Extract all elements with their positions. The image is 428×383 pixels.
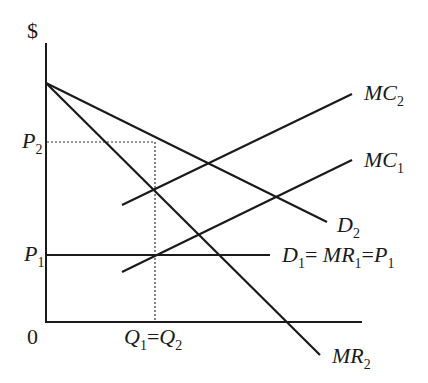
d2-curve xyxy=(46,83,327,222)
mc2-label: MC2 xyxy=(363,80,404,109)
mr2-label: MR2 xyxy=(331,343,371,372)
origin-label: 0 xyxy=(27,324,38,349)
d2-label: D2 xyxy=(336,212,360,241)
p1-label: P1 xyxy=(23,241,44,270)
p2-label: P2 xyxy=(21,128,42,157)
d1-mr1-p1-label: D1= MR1=P1 xyxy=(281,242,394,271)
y-axis-label: $ xyxy=(27,18,38,43)
mr2-curve xyxy=(46,83,320,355)
mc2-curve xyxy=(122,94,352,205)
mc1-label: MC1 xyxy=(363,147,404,176)
quantity-label: Q1=Q2 xyxy=(124,324,182,353)
price-discrimination-diagram: $ 0 P2 P1 Q1=Q2 MC2 MC1 D2 MR2 D1= MR1=P… xyxy=(0,0,428,383)
